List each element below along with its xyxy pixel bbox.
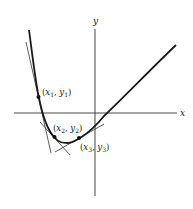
x-axis-label: x	[180, 108, 185, 118]
point-3-marker	[77, 136, 81, 140]
point-1-label: (x1, y1)	[42, 87, 71, 98]
point-2-marker	[53, 135, 57, 139]
point-3-label: (x3, y3)	[80, 142, 109, 153]
tangent-lines-diagram: x y (x1, y1) (x2, y2) (x3, y3)	[0, 0, 193, 209]
curve	[29, 30, 176, 143]
point-2-label: (x2, y2)	[53, 123, 82, 134]
point-1-marker	[37, 95, 41, 99]
y-axis-label: y	[92, 16, 99, 26]
